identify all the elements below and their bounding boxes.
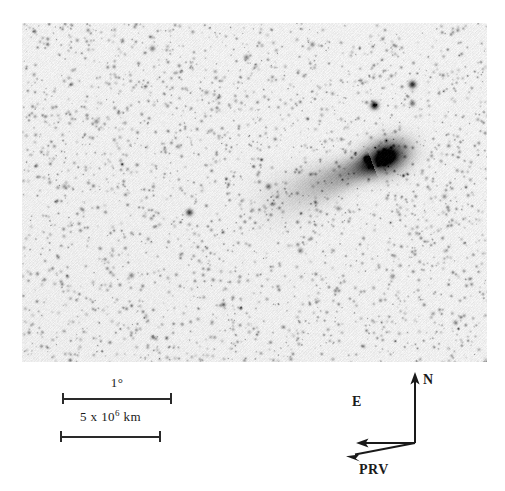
east-arrow-icon: [356, 438, 415, 447]
linear-scale-line: [60, 436, 161, 438]
compass-label-east: E: [352, 395, 361, 409]
angular-scale-line: [62, 398, 172, 400]
angular-scale-label: 1°: [62, 376, 172, 389]
angular-scale-cap-right: [170, 393, 172, 404]
angular-scale-rule: [62, 393, 172, 404]
orientation-compass: N E PRV: [330, 364, 505, 491]
compass-label-prv: PRV: [359, 463, 389, 477]
comet-sky-canvas: [22, 23, 487, 362]
linear-scale-cap-right: [159, 431, 161, 442]
linear-scale-rule: [60, 431, 161, 442]
linear-scale-label: 5 x 106 km: [46, 410, 175, 423]
north-arrow-icon: [410, 372, 419, 443]
comet-image-plate: [22, 23, 487, 362]
compass-arrows-svg: [330, 364, 505, 491]
compass-label-north: N: [423, 373, 433, 387]
prv-arrow-icon: [346, 443, 415, 461]
